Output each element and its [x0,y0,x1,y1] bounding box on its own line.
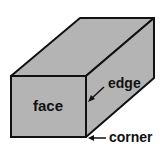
corner-arrow-icon [88,135,106,141]
corner-label: corner [109,129,153,145]
edge-label: edge [108,75,141,91]
prism-diagram: face edge corner [0,0,166,151]
face-label: face [33,97,63,114]
